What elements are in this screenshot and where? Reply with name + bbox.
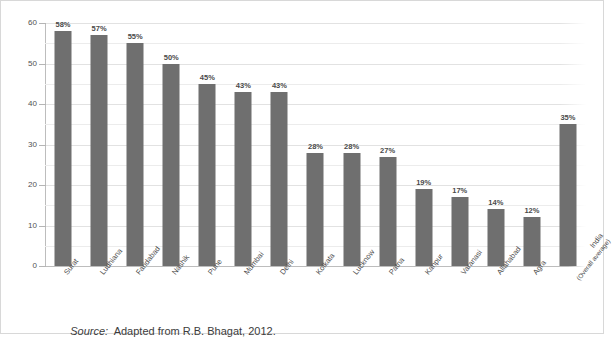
bar[interactable]	[523, 217, 540, 266]
bar[interactable]	[163, 64, 180, 267]
bar-value-label: 12%	[524, 207, 539, 215]
bar[interactable]	[235, 92, 252, 266]
y-axis-tick-label: 60	[9, 19, 37, 27]
bar-value-label: 35%	[560, 114, 575, 122]
y-axis-tick	[39, 64, 46, 65]
x-axis-tick-label: Lucknow	[334, 269, 370, 331]
y-axis-tick	[39, 266, 46, 267]
y-axis-tick-label: 50	[9, 60, 37, 68]
y-axis-tick	[39, 104, 46, 105]
bar-value-label: 55%	[128, 33, 143, 41]
y-axis-tick-label: 20	[9, 181, 37, 189]
source-text: Adapted from R.B. Bhagat, 2012.	[108, 325, 276, 337]
bar[interactable]	[55, 31, 72, 266]
bar[interactable]	[127, 43, 144, 266]
x-axis-tick-label: India(Overall average)	[550, 269, 586, 331]
bar-value-label: 28%	[308, 143, 323, 151]
x-axis-tick-label: Allahabad	[478, 269, 514, 331]
bar-chart: 0102030405060 58%57%55%50%45%43%43%28%28…	[1, 1, 605, 301]
bar-group[interactable]: 50%	[153, 23, 189, 266]
bar-value-label: 43%	[236, 82, 251, 90]
bar[interactable]	[199, 84, 216, 266]
bar-group[interactable]: 43%	[225, 23, 261, 266]
bar-group[interactable]: 14%	[478, 23, 514, 266]
bar[interactable]	[379, 157, 396, 266]
bar-value-label: 58%	[56, 21, 71, 29]
bar-group[interactable]: 27%	[370, 23, 406, 266]
bar[interactable]	[307, 153, 324, 266]
bar[interactable]	[559, 124, 576, 266]
y-axis-tick	[39, 226, 46, 227]
y-axis-tick	[39, 185, 46, 186]
bar-value-label: 57%	[92, 25, 107, 33]
bar-group[interactable]: 12%	[514, 23, 550, 266]
bar-value-label: 19%	[416, 179, 431, 187]
bar[interactable]	[451, 197, 468, 266]
bar[interactable]	[271, 92, 288, 266]
bar-group[interactable]: 55%	[117, 23, 153, 266]
bar-value-label: 17%	[452, 187, 467, 195]
y-axis-tick-label: 40	[9, 100, 37, 108]
bar-value-label: 45%	[200, 74, 215, 82]
x-axis-tick-label: Varanasi	[442, 269, 478, 331]
source-label: Source:	[70, 325, 108, 337]
bar-value-label: 27%	[380, 147, 395, 155]
bar-group[interactable]: 17%	[442, 23, 478, 266]
bar-group[interactable]: 28%	[334, 23, 370, 266]
bar-value-label: 43%	[272, 82, 287, 90]
bar-group[interactable]: 57%	[81, 23, 117, 266]
bar-group[interactable]: 45%	[189, 23, 225, 266]
bar[interactable]	[343, 153, 360, 266]
y-axis-tick	[39, 145, 46, 146]
bar-group[interactable]: 28%	[297, 23, 333, 266]
plot-area: 58%57%55%50%45%43%43%28%28%27%19%17%14%1…	[45, 23, 586, 266]
y-axis-labels: 0102030405060	[1, 1, 37, 301]
y-axis-tick-label: 0	[9, 262, 37, 270]
y-axis-tick-label: 30	[9, 141, 37, 149]
bar-group[interactable]: 19%	[406, 23, 442, 266]
bar[interactable]	[91, 35, 108, 266]
x-axis-tick-label: Kanpur	[406, 269, 442, 331]
bar[interactable]	[487, 209, 504, 266]
y-axis-tick	[39, 23, 46, 24]
bar-value-label: 50%	[164, 54, 179, 62]
source-caption: Source: Adapted from R.B. Bhagat, 2012.	[58, 310, 276, 341]
bar-value-label: 28%	[344, 143, 359, 151]
bar-value-label: 14%	[488, 199, 503, 207]
x-axis-tick-label: Agra	[514, 269, 550, 331]
bar-group[interactable]: 43%	[261, 23, 297, 266]
x-axis-tick-label: Kolkata	[297, 269, 333, 331]
x-axis-tick-label: Patna	[370, 269, 406, 331]
bar-group[interactable]: 58%	[45, 23, 81, 266]
bar-group[interactable]: 35%	[550, 23, 586, 266]
bar[interactable]	[415, 189, 432, 266]
y-axis-tick-label: 10	[9, 222, 37, 230]
